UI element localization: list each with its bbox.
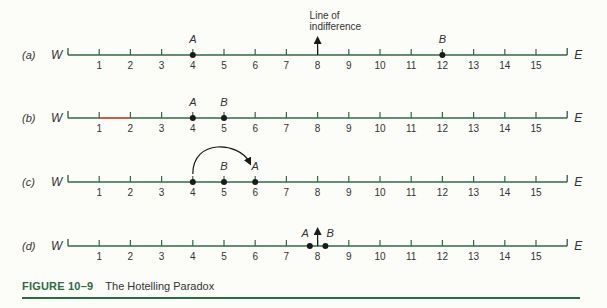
tick-label-14: 14: [499, 60, 511, 71]
panel-b: (b)WE123456789101112131415AB: [22, 96, 583, 134]
tick-label-8: 8: [315, 251, 321, 262]
tick-label-10: 10: [374, 123, 386, 134]
tick-label-4: 4: [190, 60, 196, 71]
tick-label-3: 3: [159, 251, 165, 262]
tick-label-7: 7: [284, 123, 290, 134]
tick-label-3: 3: [159, 60, 165, 71]
firm-b-label: B: [326, 227, 333, 239]
tick-label-3: 3: [159, 187, 165, 198]
firm-b-label: B: [220, 160, 227, 172]
firm-b-point: [221, 115, 227, 121]
east-label: E: [574, 239, 583, 253]
tick-label-13: 13: [468, 60, 480, 71]
tick-label-10: 10: [374, 60, 386, 71]
firm-a-point: [190, 52, 196, 58]
indifference-label-1: Line of: [310, 10, 340, 21]
tick-label-1: 1: [96, 251, 102, 262]
tick-label-14: 14: [499, 123, 511, 134]
tick-label-8: 8: [315, 187, 321, 198]
panel-label: (d): [22, 240, 36, 252]
tick-label-11: 11: [406, 60, 417, 71]
firm-a-label: A: [251, 160, 259, 172]
tick-label-15: 15: [530, 251, 542, 262]
tick-label-11: 11: [406, 187, 417, 198]
tick-label-1: 1: [96, 187, 102, 198]
firm-origin-point: [190, 179, 196, 185]
firm-a-point: [307, 243, 313, 249]
firm-b-point: [439, 52, 445, 58]
tick-label-13: 13: [468, 187, 480, 198]
tick-label-10: 10: [374, 251, 386, 262]
tick-label-12: 12: [437, 251, 449, 262]
panel-a: (a)WE123456789101112131415Line ofindiffe…: [22, 10, 583, 71]
tick-label-8: 8: [315, 123, 321, 134]
firm-b-point: [322, 243, 328, 249]
east-label: E: [574, 111, 583, 125]
panel-label: (b): [22, 112, 36, 124]
tick-label-4: 4: [190, 251, 196, 262]
west-label: W: [51, 239, 64, 253]
tick-label-6: 6: [252, 187, 258, 198]
tick-label-4: 4: [190, 123, 196, 134]
figure-number: FIGURE 10–9: [22, 280, 93, 292]
tick-label-9: 9: [346, 60, 352, 71]
tick-label-7: 7: [284, 60, 290, 71]
firm-a-point: [252, 179, 258, 185]
tick-label-1: 1: [96, 60, 102, 71]
firm-b-point: [221, 179, 227, 185]
east-label: E: [574, 175, 583, 189]
tick-label-8: 8: [315, 60, 321, 71]
firm-a-point: [190, 115, 196, 121]
tick-label-15: 15: [530, 187, 542, 198]
tick-label-13: 13: [468, 123, 480, 134]
tick-label-12: 12: [437, 187, 449, 198]
panel-d: (d)WE123456789101112131415AB: [22, 227, 583, 262]
tick-label-12: 12: [437, 60, 449, 71]
tick-label-15: 15: [530, 60, 542, 71]
caption-rule: [22, 297, 580, 299]
indifference-label-2: indifference: [310, 21, 362, 32]
tick-label-7: 7: [284, 187, 290, 198]
tick-label-9: 9: [346, 187, 352, 198]
tick-label-6: 6: [252, 60, 258, 71]
panel-label: (a): [22, 49, 36, 61]
tick-label-4: 4: [190, 187, 196, 198]
west-label: W: [51, 111, 64, 125]
west-label: W: [51, 48, 64, 62]
tick-label-7: 7: [284, 251, 290, 262]
tick-label-9: 9: [346, 251, 352, 262]
tick-label-6: 6: [252, 251, 258, 262]
tick-label-6: 6: [252, 123, 258, 134]
west-label: W: [51, 175, 64, 189]
tick-label-9: 9: [346, 123, 352, 134]
tick-label-11: 11: [406, 123, 417, 134]
tick-label-5: 5: [221, 123, 227, 134]
tick-label-10: 10: [374, 187, 386, 198]
tick-label-15: 15: [530, 123, 542, 134]
tick-label-3: 3: [159, 123, 165, 134]
tick-label-2: 2: [128, 123, 134, 134]
firm-b-label: B: [220, 96, 227, 108]
panel-label: (c): [22, 176, 35, 188]
tick-label-14: 14: [499, 187, 511, 198]
firm-a-label: A: [188, 96, 196, 108]
firm-a-label: A: [188, 33, 196, 45]
tick-label-5: 5: [221, 60, 227, 71]
hotelling-diagram: (a)WE123456789101112131415Line ofindiffe…: [0, 0, 607, 308]
tick-label-1: 1: [96, 123, 102, 134]
tick-label-14: 14: [499, 251, 511, 262]
tick-label-13: 13: [468, 251, 480, 262]
tick-label-2: 2: [128, 187, 134, 198]
tick-label-12: 12: [437, 123, 449, 134]
tick-label-5: 5: [221, 187, 227, 198]
tick-label-2: 2: [128, 251, 134, 262]
panel-c: (c)WE123456789101112131415BA: [22, 147, 583, 198]
tick-label-11: 11: [406, 251, 417, 262]
figure-title: The Hotelling Paradox: [105, 280, 214, 292]
firm-b-label: B: [439, 33, 446, 45]
firm-a-label: A: [300, 227, 308, 239]
tick-label-5: 5: [221, 251, 227, 262]
east-label: E: [574, 48, 583, 62]
tick-label-2: 2: [128, 60, 134, 71]
figure-caption: FIGURE 10–9 The Hotelling Paradox: [22, 280, 214, 292]
